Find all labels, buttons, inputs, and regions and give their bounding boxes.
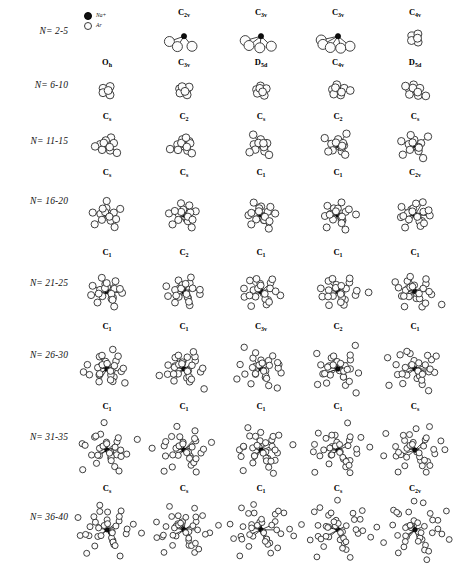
- symmetry-group: C: [102, 321, 108, 331]
- symmetry-label: C2v: [376, 168, 454, 177]
- cluster-structure-art: [68, 332, 146, 398]
- symmetry-label: C1: [68, 248, 146, 257]
- cluster-cell: C4v: [299, 58, 377, 108]
- cluster-cell: C1: [222, 168, 300, 244]
- symmetry-label: Cs: [376, 402, 454, 411]
- symmetry-label: D5d: [222, 58, 300, 67]
- cluster-structure-art: [68, 178, 146, 244]
- cluster-structures-figure: Na+ Ar N= 2-5C2vC3vC3vC4vN= 6-10OhC3vD5d…: [0, 0, 454, 588]
- symmetry-label: C1: [145, 322, 223, 331]
- cluster-structure-art: [222, 18, 300, 54]
- cluster-cell: C4v: [376, 8, 454, 54]
- symmetry-label: Cs: [222, 112, 300, 121]
- symmetry-label: Cs: [299, 484, 377, 493]
- symmetry-group: C: [333, 111, 339, 121]
- row-label-8: N= 36-40: [2, 512, 68, 522]
- symmetry-label: Cs: [68, 168, 146, 177]
- cluster-cell: C3v: [145, 58, 223, 108]
- cluster-cell: C1: [68, 322, 146, 398]
- cluster-structure-art: [145, 332, 223, 398]
- symmetry-group: C: [410, 247, 416, 257]
- legend-item-cation: Na+: [84, 11, 144, 20]
- cluster-structure-art: [145, 258, 223, 318]
- cluster-structure-art: [145, 68, 223, 108]
- cluster-structure-art: [376, 412, 454, 480]
- cluster-structure-art: [222, 68, 300, 108]
- cluster-cell: C3v: [222, 322, 300, 398]
- symmetry-label: C3v: [222, 8, 300, 17]
- cluster-structure-art: [376, 258, 454, 318]
- cluster-cell: C3v: [222, 8, 300, 54]
- cluster-cell: Cs: [145, 168, 223, 244]
- row-label-6: N= 26-30: [2, 350, 68, 360]
- cluster-structure-art: [376, 68, 454, 108]
- symmetry-group: C: [257, 111, 263, 121]
- symmetry-group: C: [256, 167, 262, 177]
- symmetry-label: C2: [145, 112, 223, 121]
- cluster-structure-art: [376, 494, 454, 558]
- cluster-cell: C1: [222, 402, 300, 480]
- cluster-cell: C1: [299, 168, 377, 244]
- symmetry-label: Cs: [376, 112, 454, 121]
- cluster-structure-art: [68, 258, 146, 318]
- cluster-cell: C1: [376, 322, 454, 398]
- symmetry-label: D5d: [376, 58, 454, 67]
- cluster-structure-art: [68, 412, 146, 480]
- cluster-cell: C1: [222, 248, 300, 318]
- cluster-cell: Cs: [68, 484, 146, 558]
- cluster-cell: C1: [145, 322, 223, 398]
- symmetry-group: D: [255, 57, 261, 67]
- symmetry-label: C1: [68, 402, 146, 411]
- symmetry-label: C3v: [145, 58, 223, 67]
- symmetry-group: C: [179, 247, 185, 257]
- cluster-structure-art: [145, 494, 223, 558]
- symmetry-label: C4v: [376, 8, 454, 17]
- symmetry-group: C: [410, 321, 416, 331]
- cluster-cell: C1: [222, 484, 300, 558]
- cluster-structure-art: [376, 332, 454, 398]
- cluster-structure-art: [299, 178, 377, 244]
- cluster-cell: C2: [299, 322, 377, 398]
- cluster-structure-art: [299, 332, 377, 398]
- symmetry-group: C: [411, 111, 417, 121]
- cluster-cell: C1: [68, 402, 146, 480]
- cluster-structure-art: [299, 258, 377, 318]
- cation-dot-icon: [84, 12, 92, 20]
- cluster-cell: C2: [145, 112, 223, 164]
- symmetry-label: C1: [145, 402, 223, 411]
- legend-label-cation: Na+: [96, 13, 106, 19]
- symmetry-group: O: [102, 57, 109, 67]
- symmetry-label: C1: [299, 248, 377, 257]
- symmetry-group: C: [179, 321, 185, 331]
- symmetry-label: C2: [299, 112, 377, 121]
- symmetry-label: Cs: [68, 484, 146, 493]
- cluster-cell: Cs: [376, 402, 454, 480]
- symmetry-label: C1: [299, 168, 377, 177]
- symmetry-group: D: [409, 57, 415, 67]
- cluster-structure-art: [68, 122, 146, 164]
- neutral-circle-icon: [84, 22, 92, 30]
- cluster-structure-art: [299, 494, 377, 558]
- cluster-cell: Cs: [145, 484, 223, 558]
- cluster-structure-art: [376, 122, 454, 164]
- cluster-cell: C2: [145, 248, 223, 318]
- symmetry-label: C1: [222, 168, 300, 177]
- row-label-7: N= 31-35: [2, 432, 68, 442]
- symmetry-group: C: [103, 167, 109, 177]
- symmetry-label: C2v: [376, 484, 454, 493]
- cluster-cell: C2v: [376, 484, 454, 558]
- cluster-cell: Cs: [299, 484, 377, 558]
- cluster-structure-art: [376, 178, 454, 244]
- symmetry-group: C: [256, 483, 262, 493]
- cluster-cell: C1: [376, 248, 454, 318]
- symmetry-group: C: [103, 111, 109, 121]
- cluster-structure-art: [299, 122, 377, 164]
- atom-type-legend: Na+ Ar: [84, 11, 144, 31]
- symmetry-label: C2v: [145, 8, 223, 17]
- cluster-cell: Oh: [68, 58, 146, 108]
- cluster-structure-art: [376, 18, 454, 54]
- cluster-structure-art: [145, 122, 223, 164]
- cluster-cell: C3v: [299, 8, 377, 54]
- row-label-3: N= 11-15: [2, 136, 68, 146]
- symmetry-group: C: [333, 321, 339, 331]
